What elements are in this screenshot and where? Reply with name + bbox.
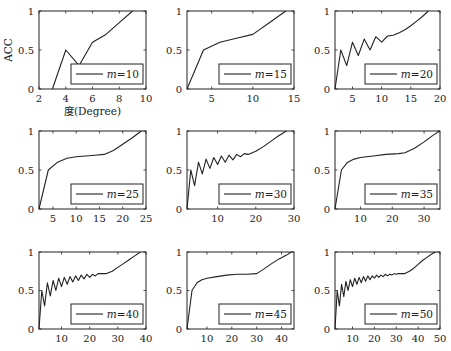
legend-label: m=40 <box>107 308 139 320</box>
y-tick-label: 0 <box>324 204 330 215</box>
y-tick-label: 1 <box>176 126 182 137</box>
x-tick-label: 10 <box>140 93 153 104</box>
x-tick-label: 10 <box>211 213 224 224</box>
y-tick-label: 0.5 <box>314 285 330 296</box>
x-tick-label: 10 <box>201 333 214 344</box>
y-tick-label: 1 <box>28 6 34 17</box>
x-tick-label: 20 <box>249 213 262 224</box>
x-tick-label: 10 <box>375 93 388 104</box>
x-tick-label: 10 <box>346 333 359 344</box>
x-tick-label: 30 <box>250 333 263 344</box>
legend-label: m=25 <box>107 188 139 200</box>
x-tick-label: 15 <box>288 93 301 104</box>
y-tick-label: 1 <box>28 126 34 137</box>
y-tick-label: 0.5 <box>314 165 330 176</box>
y-tick-label: 0.5 <box>166 285 182 296</box>
y-tick-label: 0.5 <box>166 45 182 56</box>
x-tick-label: 15 <box>404 93 417 104</box>
x-tick-label: 20 <box>225 333 238 344</box>
y-tick-label: 1 <box>324 6 330 17</box>
x-tick-label: 30 <box>111 333 124 344</box>
y-tick-label: 0.5 <box>18 285 34 296</box>
x-tick-label: 20 <box>386 213 399 224</box>
x-tick-label: 10 <box>55 333 68 344</box>
y-tick-label: 0 <box>28 204 34 215</box>
x-tick-label: 5 <box>349 93 355 104</box>
legend-label: m=30 <box>255 188 287 200</box>
legend-label: m=15 <box>255 68 287 80</box>
legend-label: m=20 <box>401 68 433 80</box>
y-tick-label: 1 <box>176 247 182 258</box>
y-tick-label: 0 <box>28 84 34 95</box>
x-tick-label: 5 <box>50 213 56 224</box>
y-tick-label: 0 <box>176 204 182 215</box>
x-tick-label: 4 <box>63 93 69 104</box>
x-tick-label: 10 <box>354 213 367 224</box>
y-tick-label: 0 <box>176 324 182 335</box>
y-tick-label: 0.5 <box>18 45 34 56</box>
y-tick-label: 0 <box>28 324 34 335</box>
y-tick-label: 0.5 <box>314 45 330 56</box>
y-tick-label: 0 <box>324 324 330 335</box>
y-tick-label: 1 <box>28 247 34 258</box>
figure-grid: 00.51246810m=10ACC度(Degree)00.5151015m=1… <box>0 0 451 351</box>
y-tick-label: 1 <box>324 126 330 137</box>
x-tick-label: 20 <box>368 333 381 344</box>
x-tick-label: 5 <box>209 93 215 104</box>
x-tick-label: 50 <box>434 333 447 344</box>
x-tick-label: 20 <box>83 333 96 344</box>
x-tick-label: 30 <box>390 333 403 344</box>
x-tick-label: 20 <box>434 93 447 104</box>
x-tick-label: 20 <box>116 213 129 224</box>
legend-label: m=35 <box>401 188 433 200</box>
y-tick-label: 0 <box>176 84 182 95</box>
x-tick-label: 2 <box>36 93 42 104</box>
legend-label: m=10 <box>107 68 139 80</box>
x-tick-label: 40 <box>275 333 288 344</box>
x-tick-label: 40 <box>140 333 153 344</box>
x-tick-label: 30 <box>288 213 301 224</box>
x-tick-label: 10 <box>246 93 259 104</box>
x-tick-label: 40 <box>412 333 425 344</box>
y-tick-label: 0.5 <box>166 165 182 176</box>
x-tick-label: 25 <box>140 213 153 224</box>
y-tick-label: 1 <box>324 247 330 258</box>
legend-label: m=50 <box>401 308 433 320</box>
x-tick-label: 15 <box>93 213 106 224</box>
y-axis-label: ACC <box>2 38 14 63</box>
x-tick-label: 10 <box>70 213 83 224</box>
y-tick-label: 0 <box>324 84 330 95</box>
x-tick-label: 6 <box>89 93 95 104</box>
x-tick-label: 30 <box>418 213 431 224</box>
x-axis-label: 度(Degree) <box>64 105 121 117</box>
x-tick-label: 8 <box>116 93 122 104</box>
y-tick-label: 1 <box>176 6 182 17</box>
legend-label: m=45 <box>255 308 287 320</box>
y-tick-label: 0.5 <box>18 165 34 176</box>
